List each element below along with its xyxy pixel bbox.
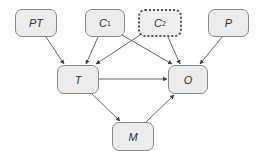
- node-c2: C2: [138, 9, 182, 37]
- node-pt: PT: [15, 9, 57, 37]
- node-c1: C1: [85, 9, 125, 37]
- node-label: T: [75, 74, 82, 86]
- edge-c1-to-o: [122, 35, 172, 64]
- edge-c2-to-t: [96, 35, 140, 64]
- edge-c2-to-o: [168, 37, 180, 64]
- node-label: C: [154, 17, 162, 29]
- edge-p-to-o: [200, 37, 222, 64]
- node-t: T: [57, 65, 99, 94]
- node-label-subscript: 2: [162, 20, 166, 27]
- node-label: O: [184, 74, 193, 86]
- node-o: O: [168, 65, 208, 94]
- edge-c1-to-t: [86, 37, 98, 64]
- edge-pt-to-t: [46, 37, 64, 64]
- node-label: C: [99, 17, 107, 29]
- edge-m-to-o: [146, 95, 174, 122]
- node-m: M: [112, 122, 154, 151]
- node-label: M: [128, 131, 137, 143]
- node-label: P: [225, 17, 232, 29]
- node-p: P: [208, 9, 249, 37]
- node-label: PT: [29, 17, 43, 29]
- edge-t-to-m: [92, 94, 120, 121]
- node-label-subscript: 1: [107, 20, 111, 27]
